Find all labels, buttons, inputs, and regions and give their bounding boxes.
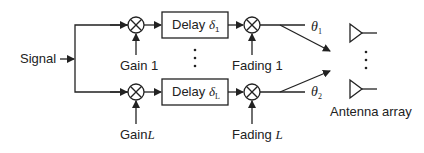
antenna-icon-top xyxy=(350,24,377,42)
delay-index: L xyxy=(215,92,220,101)
gain-text: Gain xyxy=(120,58,147,73)
fading-mixer-L xyxy=(244,84,260,100)
fading-mixer-1 xyxy=(244,17,260,33)
gain-text: Gain xyxy=(120,127,147,142)
gain-label-L: GainL xyxy=(120,128,155,141)
signal-label: Signal xyxy=(20,52,56,65)
antenna-array-label: Antenna array xyxy=(330,105,412,118)
fading-index: L xyxy=(275,127,282,142)
gain-mixer-1 xyxy=(128,17,144,33)
angle-index: 1 xyxy=(318,27,322,36)
gain-mixer-L xyxy=(128,84,144,100)
antenna-icon-bottom xyxy=(350,80,377,98)
delay-label-L: Delay δL xyxy=(172,85,220,101)
angle-label-2: θ2 xyxy=(311,85,322,101)
fading-text: Fading xyxy=(232,127,272,142)
delay-text: Delay xyxy=(172,17,205,32)
gain-index: L xyxy=(147,127,154,142)
angle-path-2 xyxy=(280,71,330,92)
angle-index: 2 xyxy=(318,92,322,101)
angle-label-1: θ1 xyxy=(311,20,322,36)
angle-symbol: θ xyxy=(311,84,318,99)
delay-index: 1 xyxy=(215,25,219,34)
delay-text: Delay xyxy=(172,84,205,99)
gain-index: 1 xyxy=(151,58,158,73)
delay-label-1: Delay δ1 xyxy=(172,18,219,34)
fading-label-L: Fading L xyxy=(232,128,283,141)
gain-label-1: Gain 1 xyxy=(120,59,158,72)
angle-symbol: θ xyxy=(311,19,318,34)
angle-path-1 xyxy=(280,25,330,51)
fading-index: 1 xyxy=(275,58,282,73)
fading-text: Fading xyxy=(232,58,272,73)
fading-label-1: Fading 1 xyxy=(232,59,283,72)
